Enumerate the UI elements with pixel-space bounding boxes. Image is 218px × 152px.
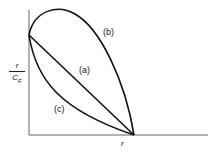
y-label-numerator: r: [8, 61, 26, 70]
y-label-denominator: CF: [8, 73, 26, 86]
label-a: (a): [79, 66, 90, 75]
denominator-sub: F: [18, 78, 22, 84]
label-b: (b): [103, 28, 114, 37]
x-axis-label: r: [121, 140, 124, 148]
y-axis-label: r CF: [8, 61, 26, 86]
fraction-bar: [9, 71, 25, 72]
diagram-canvas: [0, 0, 218, 152]
curve-a: [29, 35, 134, 135]
label-c: (c): [54, 105, 65, 114]
